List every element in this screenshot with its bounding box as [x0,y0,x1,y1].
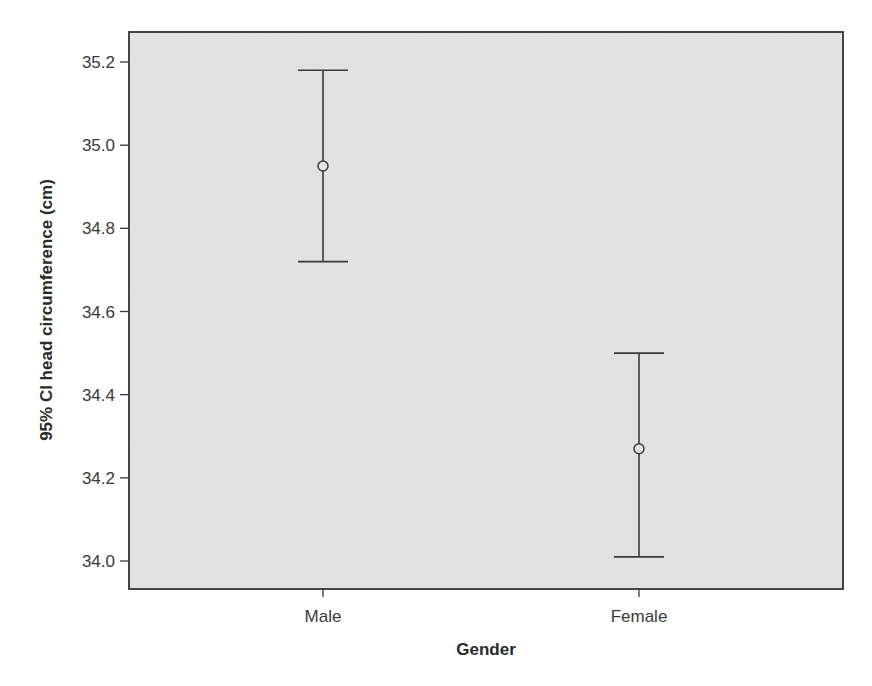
y-tick-label: 35.2 [82,53,115,72]
x-tick-label-male: Male [305,607,342,626]
x-axis-title: Gender [456,640,516,659]
x-axis: MaleFemale [305,589,668,626]
y-axis-title: 95% CI head circumference (cm) [37,179,56,441]
y-tick-label: 35.0 [82,136,115,155]
plot-area-texture [129,32,843,589]
y-tick-label: 34.6 [82,303,115,322]
error-bar-chart: 34.034.234.434.634.835.035.2 MaleFemale … [0,0,872,686]
y-axis: 34.034.234.434.634.835.035.2 [82,53,129,571]
mean-marker-icon [634,444,644,454]
y-tick-label: 34.8 [82,219,115,238]
x-tick-label-female: Female [611,607,668,626]
y-tick-label: 34.4 [82,386,115,405]
y-tick-label: 34.0 [82,552,115,571]
mean-marker-icon [318,161,328,171]
y-tick-label: 34.2 [82,469,115,488]
